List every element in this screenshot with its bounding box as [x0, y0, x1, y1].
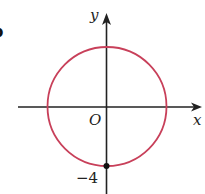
part-label: b [0, 24, 3, 40]
y-axis-label: y [90, 8, 98, 23]
origin-label: O [89, 113, 101, 128]
x-axis-label: x [193, 113, 201, 128]
diagram-canvas [0, 0, 205, 194]
circle-diagram: b y x O −4 [0, 0, 205, 194]
point-label: −4 [76, 171, 98, 186]
point-marker [104, 163, 110, 169]
